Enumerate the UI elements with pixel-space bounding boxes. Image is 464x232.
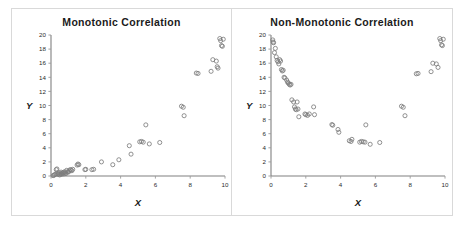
data-point (364, 123, 368, 127)
y-tick-label: 16 (259, 59, 266, 66)
y-tick-label: 8 (43, 116, 47, 123)
y-tick-label: 10 (39, 102, 46, 109)
x-axis-title: X (134, 197, 142, 208)
y-tick-label: 10 (259, 102, 266, 109)
scatter-plot-non-monotonic: 024681012141618200246810YX (232, 9, 453, 215)
y-tick-label: 20 (39, 31, 46, 38)
y-tick-label: 4 (263, 144, 267, 151)
data-point (403, 114, 407, 118)
data-point (144, 123, 148, 127)
data-point (117, 158, 121, 162)
x-tick-label: 8 (188, 181, 192, 188)
panel-non-monotonic: Non-Monotonic Correlation 02468101214161… (232, 9, 452, 215)
x-tick-label: 2 (84, 181, 88, 188)
x-tick-label: 10 (222, 181, 229, 188)
y-axis-title: Y (246, 100, 254, 111)
data-point (297, 115, 301, 119)
panels-row: Monotonic Correlation 024681012141618200… (11, 8, 453, 216)
data-point (99, 160, 103, 164)
data-point (312, 105, 316, 109)
data-point (111, 163, 115, 167)
x-tick-label: 4 (119, 181, 123, 188)
y-tick-label: 18 (259, 45, 266, 52)
data-point (436, 65, 440, 69)
x-tick-label: 0 (269, 181, 273, 188)
data-point (158, 140, 162, 144)
y-tick-label: 8 (263, 116, 267, 123)
y-tick-label: 18 (39, 45, 46, 52)
data-point (378, 140, 382, 144)
y-tick-label: 2 (43, 158, 47, 165)
data-point (368, 142, 372, 146)
scatter-plot-monotonic: 024681012141618200246810YX (12, 9, 233, 215)
data-point (147, 142, 151, 146)
y-tick-label: 0 (43, 172, 47, 179)
data-point (129, 152, 133, 156)
x-tick-label: 6 (374, 181, 378, 188)
x-axis-title: X (354, 197, 362, 208)
y-tick-label: 6 (263, 130, 267, 137)
y-tick-label: 16 (39, 59, 46, 66)
y-tick-label: 6 (43, 130, 47, 137)
x-tick-label: 10 (442, 181, 449, 188)
x-tick-label: 6 (154, 181, 158, 188)
data-point (272, 51, 276, 55)
y-tick-label: 14 (39, 74, 46, 81)
y-axis-title: Y (26, 100, 34, 111)
y-tick-label: 20 (259, 31, 266, 38)
y-tick-label: 14 (259, 74, 266, 81)
data-point (312, 113, 316, 117)
x-tick-label: 2 (304, 181, 308, 188)
x-tick-label: 4 (339, 181, 343, 188)
y-tick-label: 2 (263, 158, 267, 165)
data-point (273, 46, 277, 50)
y-tick-label: 12 (259, 88, 266, 95)
data-point (182, 114, 186, 118)
panel-monotonic: Monotonic Correlation 024681012141618200… (12, 9, 232, 215)
data-point (209, 69, 213, 73)
x-tick-label: 8 (408, 181, 412, 188)
y-tick-label: 12 (39, 88, 46, 95)
figure-container: Monotonic Correlation 024681012141618200… (0, 0, 464, 232)
data-point (429, 70, 433, 74)
y-tick-label: 4 (43, 144, 47, 151)
data-point (214, 59, 218, 63)
y-tick-label: 0 (263, 172, 267, 179)
data-point (127, 144, 131, 148)
x-tick-label: 0 (49, 181, 53, 188)
